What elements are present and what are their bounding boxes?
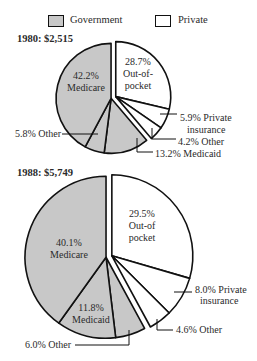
label-1988-medicare-pct: 40.1% (56, 237, 82, 248)
label-1980-private-insurance-line1: 5.9% Private (180, 112, 232, 123)
label-1988-out-of-pocket-line1: Out-of (129, 220, 156, 231)
label-1988-private-insurance-line2: insurance (200, 295, 239, 306)
label-1980-out-of-pocket-pct: 28.7% (125, 56, 151, 67)
label-1988-out-of-pocket-line2: pocket (129, 232, 156, 243)
label-1980-medicare-name: Medicare (67, 82, 105, 93)
label-1988-other-private: 4.6% Other (176, 324, 223, 335)
label-1980-out-of-pocket-line1: Out-of- (123, 68, 153, 79)
label-1980-other-private: 4.2% Other (178, 136, 225, 147)
label-1988-medicaid-name: Medicaid (72, 314, 110, 325)
label-1980-private-insurance-line2: insurance (187, 124, 226, 135)
label-1980-medicare-pct: 42.2% (73, 70, 99, 81)
label-1980-medicaid: 13.2% Medicaid (155, 148, 221, 159)
label-1988-medicaid-pct: 11.8% (78, 302, 103, 313)
label-1980-other-gov: 5.8% Other (15, 128, 62, 139)
label-1980-out-of-pocket-line2: pocket (125, 80, 152, 91)
pie-charts: 28.7% Out-of- pocket 42.2% Medicare 5.9%… (0, 0, 257, 361)
label-1988-private-insurance-line1: 8.0% Private (195, 284, 247, 295)
label-1988-other-gov: 6.0% Other (25, 339, 72, 350)
label-1988-medicare-name: Medicare (50, 249, 88, 260)
label-1988-out-of-pocket-pct: 29.5% (129, 208, 155, 219)
pie-chart-1980 (56, 42, 171, 154)
